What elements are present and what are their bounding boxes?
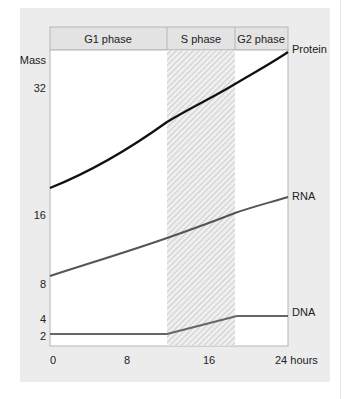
- y-tick-2: 2: [40, 330, 46, 342]
- rna-label: RNA: [292, 190, 316, 202]
- phase-s-label: S phase: [181, 33, 221, 45]
- y-axis-title: Mass: [20, 54, 47, 66]
- x-tick-24: 24 hours: [275, 354, 318, 366]
- y-tick-4: 4: [40, 313, 46, 325]
- cell-cycle-chart: G1 phase S phase G2 phase Protein RNA DN…: [0, 0, 348, 399]
- phase-g2-label: G2 phase: [237, 33, 285, 45]
- x-tick-8: 8: [124, 354, 130, 366]
- x-tick-16: 16: [203, 354, 215, 366]
- dna-label: DNA: [292, 306, 316, 318]
- s-phase-band: [167, 51, 235, 346]
- protein-label: Protein: [292, 43, 327, 55]
- x-tick-0: 0: [50, 354, 56, 366]
- y-tick-8: 8: [40, 278, 46, 290]
- phase-header: G1 phase S phase G2 phase: [50, 27, 288, 50]
- y-tick-32: 32: [34, 82, 46, 94]
- y-tick-16: 16: [34, 209, 46, 221]
- phase-g1-label: G1 phase: [84, 33, 132, 45]
